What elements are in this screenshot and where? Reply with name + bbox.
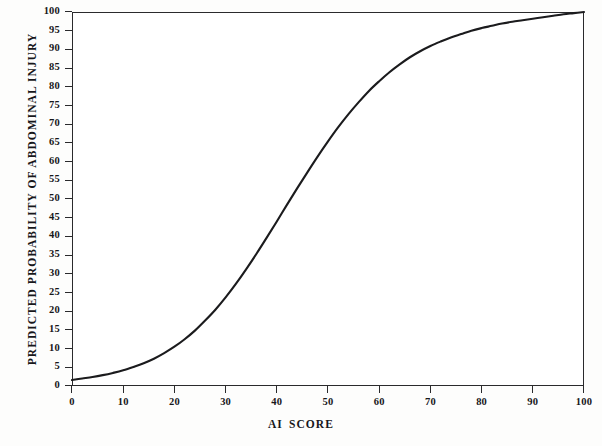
y-tick-mark [65, 236, 72, 237]
x-tick-label: 90 [513, 396, 553, 407]
y-tick-label: 35 [0, 248, 60, 259]
x-tick-mark [481, 386, 482, 393]
y-tick-label: 15 [0, 323, 60, 334]
x-tick-mark [379, 386, 380, 393]
y-tick-mark [65, 11, 72, 12]
y-tick-label: 40 [0, 229, 60, 240]
x-tick-mark [430, 386, 431, 393]
y-tick-mark [65, 255, 72, 256]
figure-canvas: PREDICTED PROBABILITY OF ABDOMINAL INJUR… [0, 0, 602, 446]
y-tick-label: 10 [0, 342, 60, 353]
x-tick-mark [174, 386, 175, 393]
y-tick-mark [65, 367, 72, 368]
x-tick-label: 50 [308, 396, 348, 407]
y-tick-label: 30 [0, 267, 60, 278]
y-tick-mark [65, 217, 72, 218]
x-tick-mark [327, 386, 328, 393]
x-axis-title-part-2: SCORE [289, 418, 334, 430]
x-tick-label: 0 [52, 396, 92, 407]
y-tick-label: 55 [0, 173, 60, 184]
x-axis-title: AISCORE [0, 418, 602, 430]
y-tick-label: 70 [0, 117, 60, 128]
x-tick-label: 60 [359, 396, 399, 407]
y-tick-label: 100 [0, 5, 60, 16]
y-tick-label: 5 [0, 360, 60, 371]
x-tick-mark [123, 386, 124, 393]
x-tick-label: 80 [462, 396, 502, 407]
y-tick-mark [65, 30, 72, 31]
y-tick-label: 80 [0, 80, 60, 91]
y-tick-label: 25 [0, 286, 60, 297]
x-tick-label: 70 [410, 396, 450, 407]
y-tick-mark [65, 142, 72, 143]
y-tick-mark [65, 49, 72, 50]
plot-area [72, 12, 584, 386]
x-tick-label: 20 [154, 396, 194, 407]
x-tick-mark [225, 386, 226, 393]
y-tick-mark [65, 348, 72, 349]
y-tick-label: 90 [0, 42, 60, 53]
y-tick-mark [65, 329, 72, 330]
y-tick-label: 0 [0, 379, 60, 390]
x-tick-label: 10 [103, 396, 143, 407]
y-tick-mark [65, 161, 72, 162]
y-tick-mark [65, 292, 72, 293]
y-tick-mark [65, 180, 72, 181]
y-tick-mark [65, 198, 72, 199]
x-tick-label: 30 [206, 396, 246, 407]
y-tick-label: 85 [0, 61, 60, 72]
y-tick-label: 20 [0, 304, 60, 315]
y-tick-mark [65, 124, 72, 125]
y-tick-label: 95 [0, 24, 60, 35]
y-tick-mark [65, 86, 72, 87]
y-tick-mark [65, 105, 72, 106]
y-tick-label: 45 [0, 211, 60, 222]
x-tick-mark [583, 386, 584, 393]
x-tick-mark [532, 386, 533, 393]
x-tick-mark [71, 386, 72, 393]
y-tick-mark [65, 311, 72, 312]
y-tick-label: 65 [0, 136, 60, 147]
x-axis-title-part-1: AI [268, 418, 283, 430]
x-tick-label: 100 [564, 396, 602, 407]
x-tick-mark [276, 386, 277, 393]
y-tick-mark [65, 68, 72, 69]
y-tick-mark [65, 273, 72, 274]
y-tick-label: 75 [0, 99, 60, 110]
y-tick-label: 60 [0, 155, 60, 166]
y-tick-label: 50 [0, 192, 60, 203]
x-tick-label: 40 [257, 396, 297, 407]
